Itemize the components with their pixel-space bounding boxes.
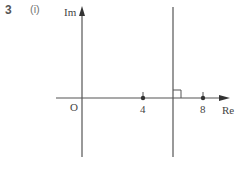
origin-label: O — [70, 101, 78, 113]
point-4-dot — [141, 96, 145, 100]
point-4-label: 4 — [140, 103, 146, 115]
point-8-dot — [201, 96, 205, 100]
real-axis-arrow-icon — [219, 95, 230, 101]
point-8-label: 8 — [200, 103, 206, 115]
real-axis-label: Re — [222, 104, 234, 116]
imaginary-axis-label: Im — [64, 6, 77, 18]
right-angle-marker-icon — [173, 90, 181, 98]
argand-diagram: Im Re O 4 8 — [0, 0, 246, 169]
imaginary-axis-arrow-icon — [79, 6, 85, 16]
